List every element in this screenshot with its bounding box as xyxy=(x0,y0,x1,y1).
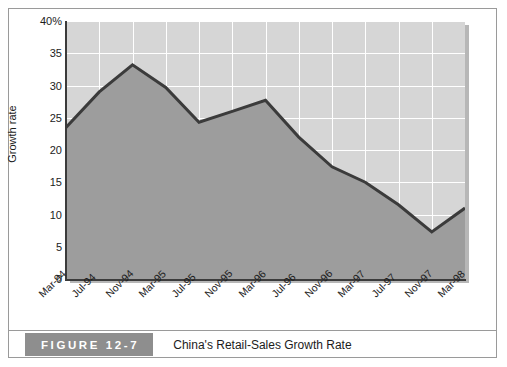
x-axis-tick-labels: Mar-94Jul-94Nov-94Mar-95Jul-95Nov-95Mar-… xyxy=(0,283,507,323)
y-tick-label: 40% xyxy=(18,16,62,27)
y-tick-label: 15 xyxy=(18,177,62,188)
y-tick-label: 10 xyxy=(18,210,62,221)
y-tick-label: 35 xyxy=(18,48,62,59)
figure-caption-text: China's Retail-Sales Growth Rate xyxy=(155,333,351,356)
chart-area: 0510152025303540% Growth rate Mar-94Jul-… xyxy=(0,0,507,320)
y-axis-line xyxy=(65,21,67,281)
plot-box xyxy=(66,21,465,279)
y-tick-label: 5 xyxy=(18,242,62,253)
figure-caption-row: FIGURE 12-7 China's Retail-Sales Growth … xyxy=(9,330,496,357)
figure-number-badge: FIGURE 12-7 xyxy=(25,333,155,356)
y-axis-tick-labels: 0510152025303540% xyxy=(14,0,62,300)
y-tick-label: 25 xyxy=(18,113,62,124)
series-area-line xyxy=(66,21,465,279)
figure-container: 0510152025303540% Growth rate Mar-94Jul-… xyxy=(0,0,507,367)
y-tick-label: 20 xyxy=(18,145,62,156)
y-tick-label: 30 xyxy=(18,81,62,92)
series-area-fill xyxy=(66,65,465,279)
y-axis-title: Growth rate xyxy=(6,105,18,162)
figure-caption-inner: FIGURE 12-7 China's Retail-Sales Growth … xyxy=(25,333,352,356)
